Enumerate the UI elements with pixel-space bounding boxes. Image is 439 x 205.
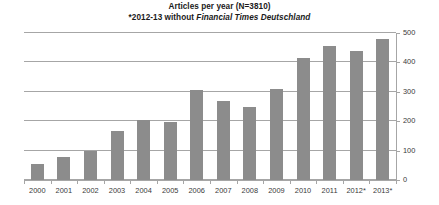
y-axis-tick-label: 200 bbox=[403, 117, 415, 125]
x-axis-tick-label: 2005 bbox=[162, 186, 178, 195]
x-tick bbox=[316, 181, 317, 184]
x-axis-tick-label: 2004 bbox=[135, 186, 151, 195]
y-tick-300 bbox=[396, 92, 400, 93]
y-axis-line bbox=[396, 33, 397, 181]
bar-2002 bbox=[84, 151, 97, 180]
x-tick bbox=[210, 181, 211, 184]
x-axis-tick-label: 2003 bbox=[109, 186, 125, 195]
bar-2009 bbox=[270, 89, 283, 180]
bar-2011 bbox=[323, 46, 336, 180]
y-tick-500 bbox=[396, 33, 400, 34]
y-axis-tick-label: 500 bbox=[403, 29, 415, 37]
page-title: Articles per year (N=3810) bbox=[0, 1, 439, 12]
y-tick-100 bbox=[396, 151, 400, 152]
chart-subtitle: *2012-13 without Financial Times Deutsch… bbox=[0, 12, 439, 23]
chart-title-block: Articles per year (N=3810) *2012-13 with… bbox=[0, 1, 439, 23]
bar-2007 bbox=[217, 101, 230, 180]
x-tick bbox=[77, 181, 78, 184]
bar-2008 bbox=[243, 107, 256, 180]
x-tick bbox=[369, 181, 370, 184]
bar-2012* bbox=[350, 51, 363, 180]
x-tick bbox=[396, 181, 397, 184]
x-tick bbox=[263, 181, 264, 184]
bar-2003 bbox=[111, 131, 124, 180]
x-axis-tick-label: 2007 bbox=[215, 186, 231, 195]
y-axis-tick-label: 400 bbox=[403, 58, 415, 66]
bar-2013* bbox=[376, 39, 389, 180]
y-axis-tick-label: 100 bbox=[403, 147, 415, 155]
chart-subtitle-prefix: *2012-13 without bbox=[129, 13, 197, 22]
bar-2005 bbox=[164, 122, 177, 180]
x-axis-tick-label: 2013* bbox=[373, 186, 392, 195]
x-axis-tick-label: 2012* bbox=[346, 186, 365, 195]
y-tick-400 bbox=[396, 62, 400, 63]
x-tick bbox=[183, 181, 184, 184]
bar-2004 bbox=[137, 120, 150, 180]
y-tick-200 bbox=[396, 121, 400, 122]
x-axis-tick-label: 2011 bbox=[322, 186, 338, 195]
x-axis-tick-label: 2010 bbox=[295, 186, 311, 195]
x-axis-tick-label: 2006 bbox=[188, 186, 204, 195]
y-axis-tick-label: 0 bbox=[403, 176, 407, 184]
x-axis-tick-label: 2001 bbox=[56, 186, 72, 195]
x-tick bbox=[24, 181, 25, 184]
x-tick bbox=[290, 181, 291, 184]
chart-bars bbox=[24, 33, 396, 180]
x-axis-tick-label: 2002 bbox=[82, 186, 98, 195]
bar-2001 bbox=[57, 157, 70, 180]
bar-2010 bbox=[297, 58, 310, 180]
x-tick bbox=[104, 181, 105, 184]
chart-container: Articles per year (N=3810) *2012-13 with… bbox=[0, 0, 439, 205]
y-axis-tick-label: 300 bbox=[403, 88, 415, 96]
bar-2006 bbox=[190, 90, 203, 180]
chart-subtitle-italic: Financial Times Deutschland bbox=[196, 13, 310, 22]
x-tick bbox=[343, 181, 344, 184]
x-axis-tick-label: 2009 bbox=[268, 186, 284, 195]
bar-2000 bbox=[31, 164, 44, 180]
x-tick bbox=[130, 181, 131, 184]
x-axis-tick-label: 2000 bbox=[29, 186, 45, 195]
x-tick bbox=[157, 181, 158, 184]
x-axis-tick-label: 2008 bbox=[242, 186, 258, 195]
x-tick bbox=[237, 181, 238, 184]
x-tick bbox=[51, 181, 52, 184]
